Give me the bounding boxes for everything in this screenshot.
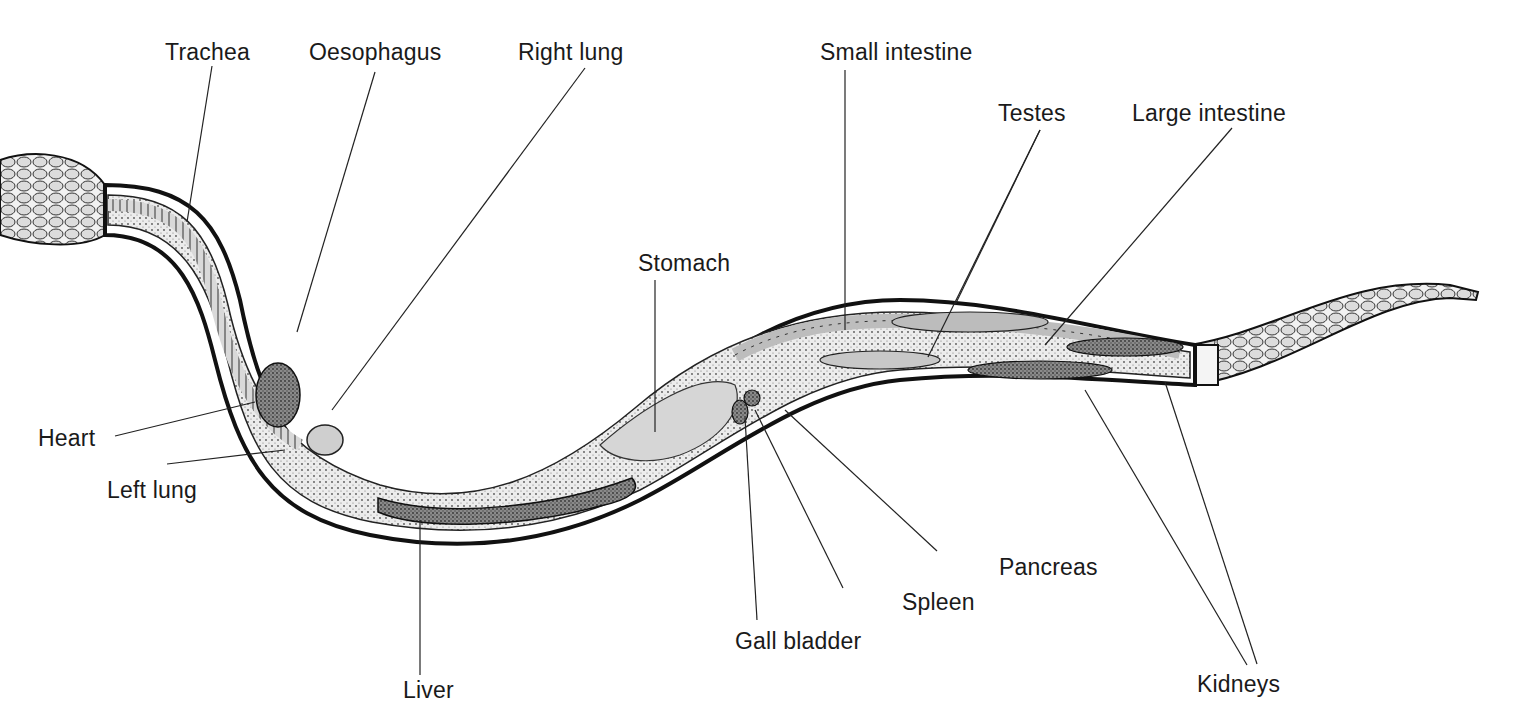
- snake-tail: [1188, 284, 1478, 385]
- left-lung-organ: [307, 425, 343, 455]
- label-left-lung: Left lung: [107, 479, 197, 502]
- label-trachea: Trachea: [165, 41, 250, 64]
- label-kidneys: Kidneys: [1197, 673, 1280, 696]
- heart-organ: [256, 363, 300, 427]
- testes-leader: [955, 130, 1040, 305]
- large-intestine-leader: [1045, 128, 1232, 345]
- label-pancreas: Pancreas: [999, 556, 1098, 579]
- testis-organ: [892, 312, 1048, 332]
- snake-anatomy-diagram: [0, 0, 1521, 726]
- oesophagus-leader: [297, 72, 375, 332]
- kidney-organ: [968, 361, 1112, 379]
- snake-head: [0, 154, 105, 244]
- label-heart: Heart: [38, 427, 95, 450]
- testis-organ: [820, 351, 940, 369]
- label-right-lung: Right lung: [518, 41, 624, 64]
- label-small-intestine: Small intestine: [820, 41, 973, 64]
- kidneys-leader: [1165, 382, 1257, 664]
- label-large-intestine: Large intestine: [1132, 102, 1286, 125]
- pancreas-leader: [785, 410, 937, 551]
- label-gall-bladder: Gall bladder: [735, 630, 861, 653]
- gall-bladder-leader: [745, 418, 757, 620]
- label-testes: Testes: [998, 102, 1066, 125]
- spleen-leader: [755, 410, 843, 588]
- label-spleen: Spleen: [902, 591, 975, 614]
- trachea-leader: [187, 66, 212, 222]
- kidney-organ: [1067, 338, 1183, 356]
- label-stomach: Stomach: [638, 252, 730, 275]
- right-lung-leader: [332, 68, 585, 410]
- label-oesophagus: Oesophagus: [309, 41, 441, 64]
- label-liver: Liver: [403, 679, 454, 702]
- kidneys-leader: [1085, 390, 1247, 665]
- spleen-organ: [744, 390, 760, 406]
